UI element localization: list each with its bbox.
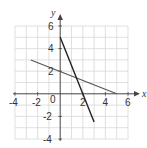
x-tick-label: -2: [32, 97, 41, 108]
shallow-line: [31, 60, 117, 94]
y-tick-label: 2: [48, 66, 54, 77]
steep-line: [60, 37, 94, 122]
coordinate-plane: y x 0 -4 -2 2 4 6 6 4 2 -2 -4: [0, 0, 147, 148]
x-axis-arrow-icon: [134, 91, 140, 97]
y-axis-label: y: [50, 7, 56, 18]
x-tick-label: 2: [80, 97, 86, 108]
y-tick-label: -2: [43, 111, 52, 122]
x-tick-label: 6: [125, 97, 131, 108]
axes: [13, 18, 136, 141]
y-axis-arrow-icon: [57, 14, 63, 20]
y-tick-label: 6: [48, 21, 54, 32]
x-axis-label: x: [141, 88, 147, 99]
x-tick-label: -4: [9, 97, 18, 108]
y-tick-label: 4: [48, 43, 54, 54]
grid: [15, 26, 128, 139]
y-tick-label: -4: [43, 134, 52, 145]
origin-label: 0: [50, 94, 56, 105]
x-tick-label: 4: [103, 97, 109, 108]
